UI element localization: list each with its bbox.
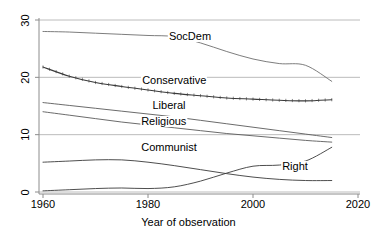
y-axis-ticks [35,20,39,192]
axis-lines [39,18,360,194]
series-label-socdem: SocDem [168,31,212,42]
x-tick-label-2000: 2000 [230,199,276,210]
series-label-religious: Religious [140,116,187,127]
series-label-right: Right [281,161,309,172]
series-line-liberal [43,103,332,138]
x-tick-label-1980: 1980 [125,199,171,210]
chart-container: 0 10 20 30 1960 1980 2000 2020 Year of o… [0,0,377,244]
y-tick-label-0: 0 [14,186,36,198]
gridlines [39,20,360,192]
series-label-liberal: Liberal [151,100,186,111]
y-tick-label-2: 20 [14,71,36,83]
y-tick-label-3-text: 30 [20,14,31,26]
x-tick-label-2020: 2020 [335,199,377,210]
y-tick-label-1-text: 10 [20,129,31,141]
series-line-religious [43,112,332,142]
x-axis-title: Year of observation [0,216,377,228]
x-axis-ticks [43,194,358,198]
y-tick-label-3: 30 [14,14,36,26]
series-label-conservative: Conservative [141,75,207,86]
y-tick-label-1: 10 [14,129,36,141]
y-tick-label-2-text: 20 [20,71,31,83]
series-label-communist: Communist [140,142,198,153]
x-tick-label-1960: 1960 [20,199,66,210]
y-tick-label-0-text: 0 [20,189,31,195]
